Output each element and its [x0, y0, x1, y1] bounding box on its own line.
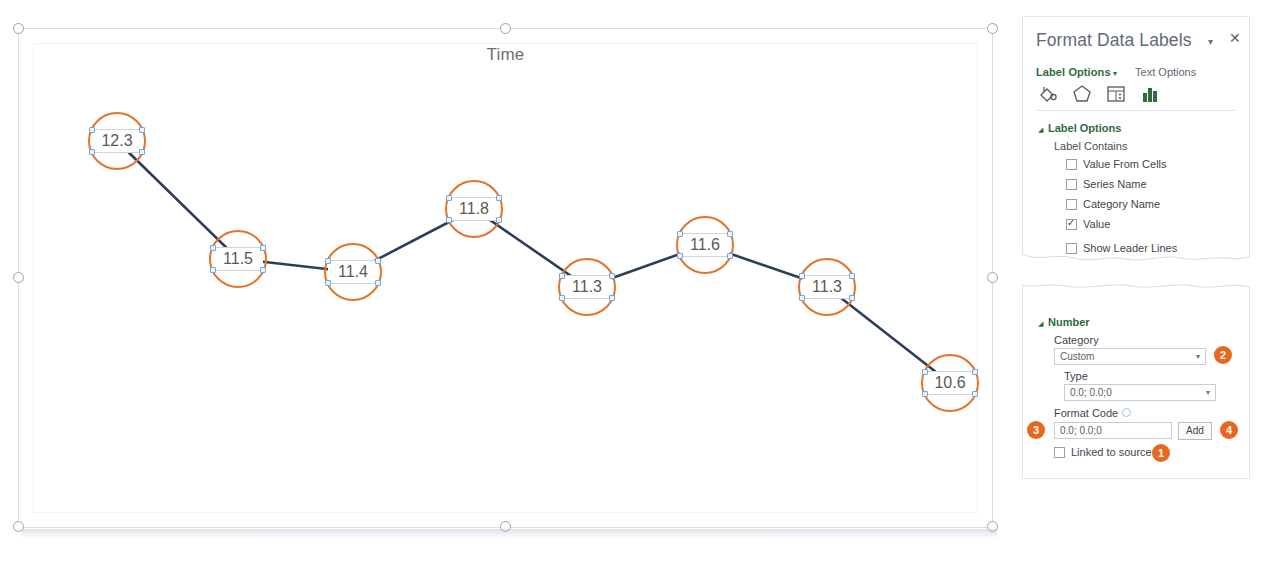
- data-label-handle[interactable]: [609, 273, 615, 279]
- badge-3: 3: [1027, 421, 1045, 439]
- category-label: Category: [1054, 334, 1099, 346]
- data-label-handle[interactable]: [799, 295, 805, 301]
- data-label-handle[interactable]: [972, 369, 978, 375]
- info-icon[interactable]: [1122, 408, 1131, 417]
- data-label-handle[interactable]: [559, 295, 565, 301]
- chevron-down-icon-type[interactable]: ▾: [1206, 388, 1210, 397]
- size-properties-icon[interactable]: [1104, 82, 1128, 106]
- data-label-handle[interactable]: [260, 267, 266, 273]
- checkbox-box[interactable]: [1066, 159, 1077, 170]
- effects-pentagon-icon[interactable]: [1070, 82, 1094, 106]
- format-data-labels-pane[interactable]: Format Data Labels ▾ ✕ Label Options▾ Te…: [1022, 16, 1250, 486]
- format-code-label: Format Code: [1054, 407, 1118, 419]
- data-label-handle[interactable]: [375, 258, 381, 264]
- data-label-value: 11.5: [213, 247, 263, 271]
- category-value: Custom: [1060, 351, 1094, 362]
- checkbox-label: Value: [1083, 218, 1110, 230]
- chevron-down-icon[interactable]: ▾: [1208, 36, 1213, 47]
- data-label-handle[interactable]: [89, 127, 95, 133]
- checkbox-label: Series Name: [1083, 178, 1147, 190]
- pane-tabs[interactable]: Label Options▾ Text Options: [1036, 62, 1196, 80]
- data-label-handle[interactable]: [89, 149, 95, 155]
- data-label-handle[interactable]: [210, 267, 216, 273]
- add-button[interactable]: Add: [1178, 422, 1212, 440]
- tab-label-options[interactable]: Label Options: [1036, 66, 1111, 78]
- data-label[interactable]: 10.6: [921, 354, 979, 412]
- pane-icon-underline: [1036, 110, 1236, 111]
- data-label[interactable]: 11.3: [558, 258, 616, 316]
- data-label-handle[interactable]: [727, 231, 733, 237]
- checkbox-box[interactable]: [1066, 199, 1077, 210]
- type-combo[interactable]: 0.0; 0.0;0 ▾: [1064, 384, 1216, 401]
- pane-icon-row[interactable]: [1036, 82, 1236, 110]
- data-label-handle[interactable]: [139, 127, 145, 133]
- data-label-handle[interactable]: [559, 273, 565, 279]
- data-label-value: 11.6: [680, 233, 730, 257]
- pane-title: Format Data Labels: [1036, 30, 1191, 51]
- data-label-handle[interactable]: [496, 217, 502, 223]
- data-label[interactable]: 11.3: [798, 258, 856, 316]
- data-label-handle[interactable]: [446, 195, 452, 201]
- data-label-value: 12.3: [92, 129, 142, 153]
- number-heading: Number: [1048, 316, 1090, 328]
- data-label-handle[interactable]: [609, 295, 615, 301]
- add-button-label: Add: [1186, 425, 1204, 436]
- fill-bucket-icon[interactable]: [1036, 82, 1060, 106]
- data-label-value: 11.3: [562, 275, 612, 299]
- data-label-handle[interactable]: [375, 280, 381, 286]
- number-caret[interactable]: ◢: [1038, 320, 1043, 328]
- data-label-handle[interactable]: [260, 245, 266, 251]
- data-label-handle[interactable]: [922, 369, 928, 375]
- checkbox-label: Category Name: [1083, 198, 1160, 210]
- data-label-handle[interactable]: [325, 258, 331, 264]
- close-icon[interactable]: ✕: [1229, 30, 1241, 46]
- label-options-caret[interactable]: ◢: [1038, 126, 1043, 134]
- data-label-handle[interactable]: [849, 295, 855, 301]
- chevron-down-icon-category[interactable]: ▾: [1196, 352, 1200, 361]
- data-label-handle[interactable]: [849, 273, 855, 279]
- label-contains-heading: Label Contains: [1054, 140, 1127, 152]
- data-label-value: 11.8: [449, 197, 499, 221]
- checkbox-label: Linked to source: [1071, 446, 1152, 458]
- label-options-heading: Label Options: [1048, 122, 1121, 134]
- data-label-handle[interactable]: [325, 280, 331, 286]
- data-label-handle[interactable]: [496, 195, 502, 201]
- data-label[interactable]: 11.8: [445, 180, 503, 238]
- data-label-handle[interactable]: [799, 273, 805, 279]
- badge-4: 4: [1220, 421, 1238, 439]
- data-label-handle[interactable]: [677, 253, 683, 259]
- format-code-input[interactable]: 0.0; 0.0;0: [1054, 422, 1172, 439]
- data-label-handle[interactable]: [922, 391, 928, 397]
- data-label-handle[interactable]: [677, 231, 683, 237]
- checkbox-label: Show Leader Lines: [1083, 242, 1177, 254]
- checkbox-box[interactable]: [1066, 179, 1077, 190]
- chart-object[interactable]: Time 12.311.511.411.811.311.611.310.6: [18, 28, 993, 528]
- badge-1: 1: [1152, 444, 1170, 462]
- chevron-down-icon-tab[interactable]: ▾: [1113, 69, 1117, 78]
- data-label-handle[interactable]: [727, 253, 733, 259]
- tab-text-options[interactable]: Text Options: [1135, 66, 1196, 78]
- label-options-chart-icon[interactable]: [1138, 82, 1162, 106]
- badge-2: 2: [1214, 346, 1232, 364]
- data-label[interactable]: 12.3: [88, 112, 146, 170]
- data-label[interactable]: 11.6: [676, 216, 734, 274]
- checkbox-box[interactable]: [1066, 219, 1077, 230]
- data-label[interactable]: 11.5: [209, 230, 267, 288]
- type-label: Type: [1064, 370, 1088, 382]
- type-value: 0.0; 0.0;0: [1070, 387, 1112, 398]
- checkbox-box[interactable]: [1054, 447, 1065, 458]
- data-label-value: 11.3: [802, 275, 852, 299]
- checkbox-box[interactable]: [1066, 243, 1077, 254]
- paper-shadow: [22, 529, 997, 538]
- checkbox-label: Value From Cells: [1083, 158, 1167, 170]
- data-label[interactable]: 11.4: [324, 243, 382, 301]
- data-label-handle[interactable]: [446, 217, 452, 223]
- format-code-value: 0.0; 0.0;0: [1060, 425, 1102, 436]
- data-label-value: 10.6: [925, 371, 975, 395]
- category-combo[interactable]: Custom ▾: [1054, 348, 1206, 365]
- data-label-handle[interactable]: [210, 245, 216, 251]
- data-label-handle[interactable]: [972, 391, 978, 397]
- data-label-value: 11.4: [328, 260, 378, 284]
- data-label-handle[interactable]: [139, 149, 145, 155]
